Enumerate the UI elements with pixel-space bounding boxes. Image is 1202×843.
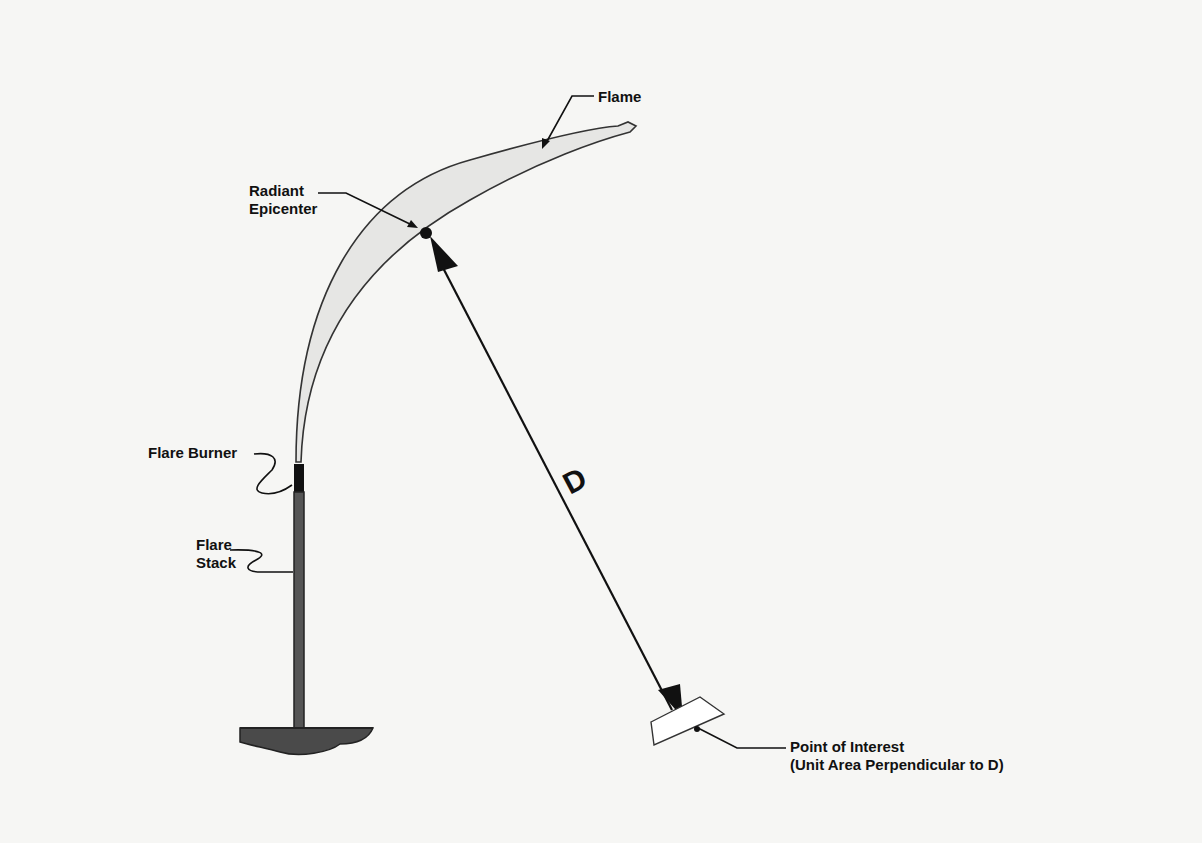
point-of-interest-plane: [651, 697, 724, 745]
flare-radiation-diagram: [0, 0, 1202, 843]
radiant-epicenter-point: [420, 227, 432, 239]
distance-line: [440, 262, 672, 710]
stack-label-line1: Flare: [196, 536, 236, 554]
flame-label: Flame: [598, 88, 641, 106]
poi-label-line2: (Unit Area Perpendicular to D): [790, 756, 1004, 774]
flare-burner: [294, 464, 304, 492]
point-of-interest-label: Point of Interest (Unit Area Perpendicul…: [790, 738, 1004, 774]
stack-label-line2: Stack: [196, 554, 236, 572]
arrowhead-up-icon: [430, 236, 458, 272]
leader-burner: [254, 454, 292, 494]
flare-stack: [294, 492, 304, 728]
flare-burner-label: Flare Burner: [148, 444, 237, 462]
flame-plume: [296, 122, 636, 462]
flare-stack-label: Flare Stack: [196, 536, 236, 572]
radiant-label-line1: Radiant: [249, 182, 317, 200]
radiant-epicenter-label: Radiant Epicenter: [249, 182, 317, 218]
leader-stack: [230, 550, 293, 572]
radiant-label-line2: Epicenter: [249, 200, 317, 218]
poi-label-line1: Point of Interest: [790, 738, 1004, 756]
ground: [240, 728, 373, 754]
leader-poi: [698, 728, 786, 748]
